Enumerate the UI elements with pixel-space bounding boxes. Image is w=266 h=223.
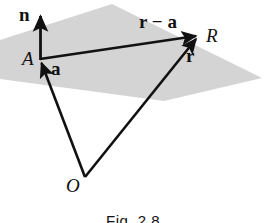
point-o-label: O (66, 176, 80, 195)
vector-plane-diagram (0, 0, 266, 223)
point-r-label: R (206, 26, 218, 45)
point-a-label: A (22, 49, 34, 68)
vector-r-minus-a-label: r − a (139, 12, 177, 31)
figure-container: n a r − a r A R O Fig. 2.8 (0, 0, 266, 223)
vector-a-label: a (51, 59, 61, 78)
vector-r-label: r (186, 46, 194, 65)
figure-caption: Fig. 2.8 (0, 212, 266, 223)
vector-n-label: n (19, 5, 30, 24)
